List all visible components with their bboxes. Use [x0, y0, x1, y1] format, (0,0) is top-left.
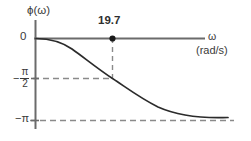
x-axis-units-label: (rad/s): [196, 45, 228, 56]
phase-plot-figure: ϕ(ω) 0 19.7 ω (rad/s) − π 2 −π: [0, 0, 251, 141]
fraction-numerator: π: [20, 67, 29, 77]
x-axis-label-omega: ω: [208, 31, 216, 42]
minus-sign-half-pi: −: [13, 73, 19, 84]
data-point-marker-19-7: [109, 35, 115, 41]
fraction-pi-over-two: π 2: [20, 67, 29, 89]
y-tick-label-minus-pi: −π: [15, 113, 29, 124]
y-tick-label-zero: 0: [20, 31, 26, 43]
plot-canvas: [0, 0, 251, 141]
y-tick-label-minus-half-pi: − π 2: [13, 67, 29, 89]
fraction-denominator: 2: [21, 79, 29, 89]
y-axis-label: ϕ(ω): [27, 5, 50, 17]
annotation-label-19-7: 19.7: [98, 15, 120, 27]
